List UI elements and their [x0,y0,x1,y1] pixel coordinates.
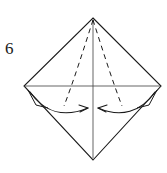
right-fold-arrow-curve [98,92,155,113]
origami-diagram-svg [0,0,167,173]
paper-outline-diamond [24,18,161,160]
origami-step-figure: 6 [0,0,167,173]
left-fold-arrow-curve [30,92,88,113]
